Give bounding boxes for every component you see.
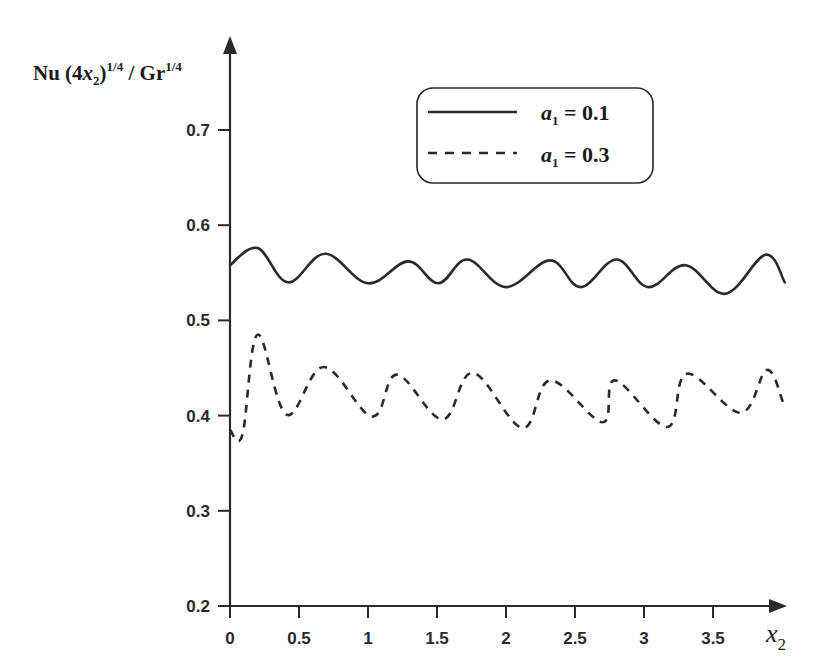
x-tick-label: 3.5 — [701, 629, 725, 648]
plot-area — [230, 248, 785, 442]
chart-canvas: 0.20.30.40.50.60.7 00.511.522.533.5 Nu (… — [0, 0, 823, 672]
svg-text:a1 = 0.1: a1 = 0.1 — [541, 100, 610, 128]
x-tick-label: 1 — [363, 629, 372, 648]
x-axis: 00.511.522.533.5 — [218, 594, 787, 648]
y-tick-label: 0.7 — [186, 121, 210, 140]
y-axis-arrow-icon — [223, 36, 237, 54]
legend: a1 = 0.1 a1 = 0.3 — [417, 88, 653, 183]
x-axis-arrow-icon — [769, 599, 787, 613]
y-tick-label: 0.4 — [186, 407, 210, 426]
svg-text:a1 = 0.3: a1 = 0.3 — [541, 142, 610, 170]
x-axis-label: x2 — [765, 619, 786, 654]
y-tick-label: 0.2 — [186, 597, 210, 616]
x-tick-label: 0 — [225, 629, 234, 648]
series-line-a1-0.3 — [230, 335, 783, 442]
y-axis-label: Nu (4x2)1/4 / Gr1/4 — [33, 59, 182, 88]
x-tick-label: 2.5 — [563, 629, 587, 648]
y-tick-label: 0.6 — [186, 216, 210, 235]
x-tick-label: 0.5 — [287, 629, 311, 648]
x-tick-label: 2 — [501, 629, 510, 648]
y-axis: 0.20.30.40.50.60.7 — [186, 36, 237, 616]
x-tick-label: 1.5 — [425, 629, 449, 648]
y-tick-label: 0.5 — [186, 311, 210, 330]
x-tick-label: 3 — [639, 629, 648, 648]
y-tick-label: 0.3 — [186, 502, 210, 521]
legend-box — [417, 88, 653, 183]
series-line-a1-0.1 — [230, 248, 785, 294]
